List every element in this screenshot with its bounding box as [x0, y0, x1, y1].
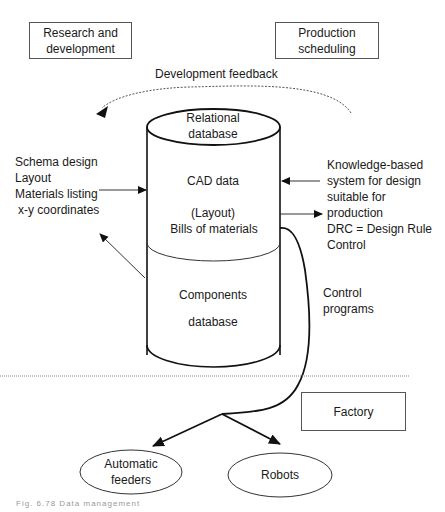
robots-arrow	[222, 414, 280, 444]
robots-label: Robots	[240, 467, 320, 483]
control-programs-line2: programs	[323, 301, 374, 317]
cad-data-label: CAD data	[163, 173, 263, 189]
feeders-arrow	[153, 414, 222, 446]
right-system-line3: suitable for	[327, 189, 432, 205]
layout-label: (Layout)	[163, 205, 263, 221]
control-programs-label: Control programs	[323, 285, 374, 317]
right-system-line5: DRC = Design Rule	[327, 221, 432, 237]
figure-caption: Fig. 6.78 Data management	[16, 499, 140, 508]
research-return-arrow	[100, 234, 145, 278]
relational-database-label: Relational database	[163, 110, 263, 142]
left-input-line3: Materials listing	[15, 186, 99, 202]
left-input-text: Schema design Layout Materials listing x…	[15, 154, 99, 218]
production-scheduling-box: Production scheduling	[275, 22, 379, 59]
right-system-line4: production	[327, 205, 432, 221]
production-box-line1: Production	[298, 25, 355, 41]
components-database-label: database	[163, 314, 263, 330]
automatic-feeders-label: Automatic feeders	[91, 456, 171, 488]
research-box-line1: Research and	[43, 25, 118, 41]
right-system-line1: Knowledge-based	[327, 157, 432, 173]
left-input-line2: Layout	[15, 170, 99, 186]
feeders-line1: Automatic	[91, 456, 171, 472]
components-label: Components	[163, 287, 263, 303]
right-system-line2: system for design	[327, 173, 432, 189]
factory-box: Factory	[301, 392, 406, 431]
relational-label-line2: database	[163, 126, 263, 142]
factory-box-label: Factory	[333, 404, 373, 420]
bills-of-materials-label: Bills of materials	[150, 221, 278, 237]
production-box-line2: scheduling	[298, 41, 355, 57]
development-feedback-label: Development feedback	[155, 66, 278, 82]
feeders-line2: feeders	[91, 472, 171, 488]
relational-label-line1: Relational	[163, 110, 263, 126]
research-box-line2: development	[43, 41, 118, 57]
right-system-text: Knowledge-based system for design suitab…	[327, 157, 432, 253]
research-development-box: Research and development	[29, 22, 132, 59]
control-programs-line1: Control	[323, 285, 374, 301]
left-input-line1: Schema design	[15, 154, 99, 170]
right-system-line6: Control	[327, 237, 432, 253]
left-input-line4: x-y coordinates	[15, 202, 99, 218]
